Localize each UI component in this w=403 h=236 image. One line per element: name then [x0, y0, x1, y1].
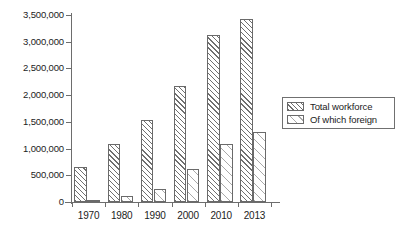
x-axis-line: [65, 202, 280, 203]
bar-2000-of-which-foreign: [187, 169, 200, 202]
y-axis-tick-label: 2,000,000: [23, 90, 64, 100]
x-axis-tick-label-1970: 1970: [72, 210, 105, 222]
y-axis-tick: [66, 122, 71, 123]
y-axis-tick: [66, 68, 71, 69]
legend-item-of-which-foreign: Of which foreign: [287, 113, 394, 126]
bar-2013-of-which-foreign: [253, 132, 266, 202]
plot-area: [72, 15, 271, 202]
y-axis-tick-label: 1,500,000: [23, 117, 64, 127]
x-axis-tick: [271, 203, 272, 207]
chart-legend: Total workforce Of which foreign: [282, 97, 395, 129]
x-axis-tick: [138, 203, 139, 207]
bar-1970-total-workforce: [74, 167, 87, 202]
bar-1990-total-workforce: [141, 120, 154, 202]
legend-label-total-workforce: Total workforce: [310, 101, 372, 112]
bar-2010-of-which-foreign: [220, 144, 233, 202]
y-axis-tick-label: 3,000,000: [23, 37, 64, 47]
x-axis-tick: [205, 203, 206, 207]
x-axis-tick: [172, 203, 173, 207]
y-axis-tick: [66, 149, 71, 150]
x-axis-tick-label-1980: 1980: [105, 210, 138, 222]
y-axis-tick-label: 0: [59, 197, 64, 207]
x-axis-tick: [238, 203, 239, 207]
x-axis-tick: [105, 203, 106, 207]
bar-2010-total-workforce: [207, 35, 220, 202]
y-axis-tick: [66, 95, 71, 96]
y-axis-tick: [66, 42, 71, 43]
legend-label-of-which-foreign: Of which foreign: [310, 114, 377, 125]
x-axis-tick-label-2000: 2000: [172, 210, 205, 222]
y-axis-tick-label: 1,000,000: [23, 144, 64, 154]
bar-2000-total-workforce: [174, 86, 187, 202]
x-axis-tick-label-2013: 2013: [238, 210, 271, 222]
legend-swatch-of-which-foreign: [287, 115, 304, 124]
legend-swatch-total-workforce: [287, 102, 304, 111]
bar-1970-of-which-foreign: [87, 200, 100, 202]
y-axis-tick: [66, 15, 71, 16]
x-axis-tick-label-1990: 1990: [138, 210, 171, 222]
y-axis-tick-label: 3,500,000: [23, 10, 64, 20]
bar-2013-total-workforce: [240, 19, 253, 202]
bar-1980-of-which-foreign: [121, 196, 134, 202]
y-axis-tick: [66, 202, 71, 203]
x-axis-tick: [72, 203, 73, 207]
y-axis-tick-label: 500,000: [31, 170, 64, 180]
y-axis-tick-label: 2,500,000: [23, 63, 64, 73]
legend-item-total-workforce: Total workforce: [287, 100, 394, 113]
bar-chart-figure: 0500,0001,000,0001,500,0002,000,0002,500…: [0, 0, 403, 236]
x-axis-tick-label-2010: 2010: [205, 210, 238, 222]
bar-1990-of-which-foreign: [154, 189, 167, 202]
bar-1980-total-workforce: [108, 144, 121, 202]
y-axis-tick: [66, 175, 71, 176]
